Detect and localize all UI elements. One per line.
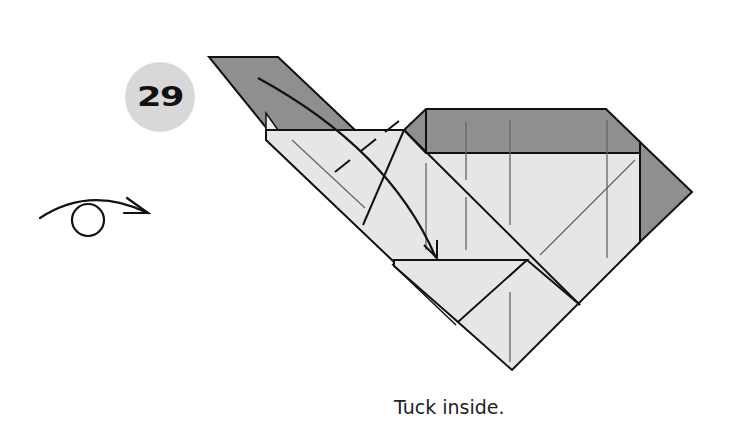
dark-triangle-right (640, 142, 692, 242)
origami-diagram: 29 (0, 0, 734, 421)
fold-illustration (0, 0, 734, 421)
dark-flap-left (209, 57, 355, 130)
instruction-caption: Tuck inside. (394, 396, 505, 418)
dark-band-top (404, 109, 640, 153)
turn-over-icon (40, 198, 148, 236)
paper-body (266, 130, 640, 370)
